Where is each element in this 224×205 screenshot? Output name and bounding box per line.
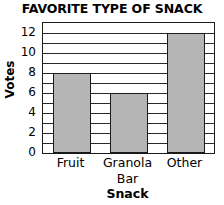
x-axis-tick-label: Other [156, 155, 213, 171]
bar [167, 33, 205, 153]
x-axis-tick-labels: FruitGranola BarOther [42, 155, 213, 189]
y-axis-tick-label: 8 [28, 66, 36, 78]
x-axis-tick-label: Granola Bar [99, 155, 156, 187]
bar-chart: FAVORITE TYPE OF SNACK Votes 024681012 F… [0, 0, 224, 205]
y-axis-tick-label: 12 [21, 26, 36, 38]
y-axis-tick-label: 0 [28, 146, 36, 158]
x-axis-title: Snack [42, 187, 213, 201]
y-axis-tick-label: 10 [21, 46, 36, 58]
y-axis-tick-label: 4 [28, 106, 36, 118]
bars [43, 23, 214, 153]
y-axis-tick-label: 2 [28, 126, 36, 138]
y-axis-tick-labels: 024681012 [0, 22, 39, 152]
y-axis-tick-label: 6 [28, 86, 36, 98]
bar [53, 73, 91, 153]
plot-area [42, 22, 215, 154]
bar [110, 93, 148, 153]
chart-title: FAVORITE TYPE OF SNACK [0, 1, 224, 16]
x-axis-tick-label: Fruit [42, 155, 99, 171]
